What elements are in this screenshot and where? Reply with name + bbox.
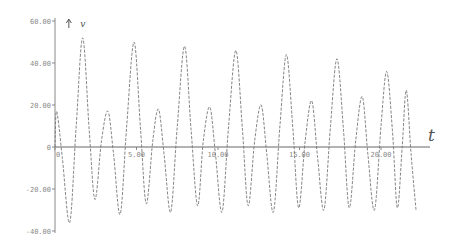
y-tick-label: 60.00 [30, 18, 51, 26]
y-axis-ticks: 60.0040.0020.000-20.00-40.00 [26, 18, 55, 236]
y-tick-label: 40.00 [30, 60, 51, 68]
series-line [55, 38, 416, 223]
y-axis-arrow-icon [66, 19, 71, 28]
x-tick-label: 15.00 [289, 151, 310, 159]
y-tick-label: -20.00 [26, 186, 51, 194]
x-tick-label: 10.00 [207, 151, 228, 159]
y-axis-label: v [80, 19, 85, 29]
x-tick-label: 0 [56, 151, 60, 159]
x-axis-label: t [428, 125, 435, 145]
y-tick-label: 0 [47, 144, 51, 152]
y-tick-label: 20.00 [30, 102, 51, 110]
series-group [55, 38, 416, 223]
y-tick-label: -40.00 [26, 228, 51, 236]
x-tick-label: 20.00 [370, 151, 391, 159]
line-chart: 60.0040.0020.000-20.00-40.00 05.0010.001… [0, 0, 459, 246]
x-axis-ticks: 05.0010.0015.0020.00 [55, 147, 392, 159]
